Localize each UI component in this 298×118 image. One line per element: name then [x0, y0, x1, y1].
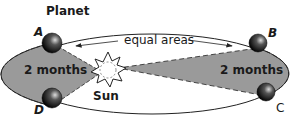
- point-b-label: B: [268, 26, 277, 40]
- planet-d-icon: [42, 88, 62, 108]
- planet-c-icon: [257, 83, 275, 101]
- sun-icon: [91, 52, 126, 87]
- equal-areas-label: equal areas: [124, 33, 194, 47]
- planet-title: Planet: [46, 4, 90, 18]
- planet-a-icon: [42, 33, 62, 53]
- kepler-second-law-diagram: Planet A B C D equal areas 2 months 2 mo…: [0, 0, 298, 118]
- left-sector-label: 2 months: [24, 63, 87, 77]
- point-a-label: A: [33, 25, 43, 39]
- planet-b-icon: [249, 34, 267, 52]
- point-c-label: C: [276, 101, 284, 115]
- sun-label: Sun: [93, 89, 119, 103]
- right-sector-label: 2 months: [220, 63, 283, 77]
- equal-areas-arrow-left: [76, 41, 118, 46]
- point-d-label: D: [34, 103, 44, 117]
